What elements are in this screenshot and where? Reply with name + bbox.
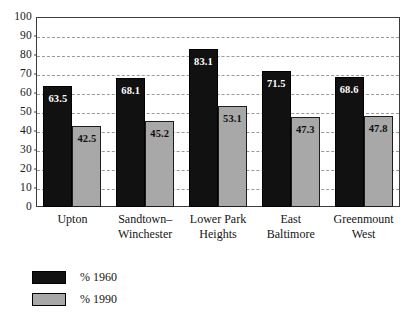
- x-tick-label-line: Sandtown–: [109, 212, 182, 227]
- bar-value-label: 68.1: [117, 85, 144, 96]
- bar: 68.1: [116, 78, 145, 207]
- y-tick-label: 50: [0, 106, 32, 118]
- bar: 42.5: [72, 126, 101, 207]
- x-tick-label-line: West: [327, 227, 400, 242]
- x-tick-label-line: Winchester: [109, 227, 182, 242]
- bar-value-label: 45.2: [146, 128, 173, 139]
- x-tick-label-line: Baltimore: [254, 227, 327, 242]
- y-tick-label: 30: [0, 144, 32, 156]
- bar: 83.1: [189, 49, 218, 207]
- bar-chart: 0102030405060708090100 63.568.183.171.56…: [0, 0, 420, 328]
- y-tick-label: 0: [0, 201, 32, 213]
- y-tick-label: 10: [0, 182, 32, 194]
- x-tick-label: GreenmountWest: [327, 212, 400, 242]
- x-tick-label: Upton: [36, 212, 109, 227]
- legend-item: % 1960: [32, 268, 232, 290]
- legend-label: % 1960: [80, 268, 117, 287]
- y-axis: 0102030405060708090100: [0, 17, 32, 207]
- bar: 53.1: [218, 106, 247, 207]
- x-tick-label: EastBaltimore: [254, 212, 327, 242]
- x-axis-labels: UptonSandtown–WinchesterLower ParkHeight…: [36, 212, 400, 258]
- y-tick-label: 40: [0, 125, 32, 137]
- x-tick-label: Lower ParkHeights: [182, 212, 255, 242]
- y-tick-label: 90: [0, 30, 32, 42]
- bar-value-label: 68.6: [336, 84, 363, 95]
- bar-value-label: 63.5: [44, 93, 71, 104]
- bar-value-label: 53.1: [219, 113, 246, 124]
- y-tick-label: 20: [0, 163, 32, 175]
- x-tick-label-line: Greenmount: [327, 212, 400, 227]
- bar: 63.5: [43, 86, 72, 207]
- bar: 71.5: [262, 71, 291, 207]
- bar-value-label: 71.5: [263, 78, 290, 89]
- x-tick-label-line: East: [254, 212, 327, 227]
- y-tick-label: 80: [0, 49, 32, 61]
- chart-legend: % 1960 % 1990: [32, 268, 232, 312]
- bar: 68.6: [335, 77, 364, 207]
- bar-value-label: 42.5: [73, 133, 100, 144]
- x-tick-label-line: Lower Park: [182, 212, 255, 227]
- y-tick-label: 60: [0, 87, 32, 99]
- y-tick-label: 70: [0, 68, 32, 80]
- legend-item: % 1990: [32, 290, 232, 312]
- gray-swatch-icon: [32, 293, 66, 306]
- x-tick-label-line: Heights: [182, 227, 255, 242]
- bar: 47.8: [364, 116, 393, 207]
- y-tick-label: 100: [0, 11, 32, 23]
- bar-value-label: 47.8: [365, 123, 392, 134]
- bar-value-label: 47.3: [292, 124, 319, 135]
- black-swatch-icon: [32, 271, 66, 284]
- bar-value-label: 83.1: [190, 56, 217, 67]
- x-tick-label-line: Upton: [36, 212, 109, 227]
- x-tick-label: Sandtown–Winchester: [109, 212, 182, 242]
- bars-layer: 63.568.183.171.568.642.545.253.147.347.8: [36, 17, 400, 207]
- bar: 45.2: [145, 121, 174, 207]
- legend-label: % 1990: [80, 290, 117, 309]
- bar: 47.3: [291, 117, 320, 207]
